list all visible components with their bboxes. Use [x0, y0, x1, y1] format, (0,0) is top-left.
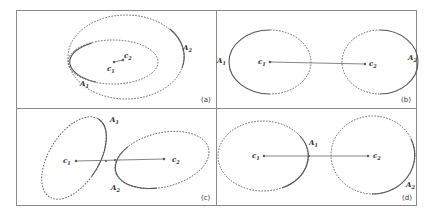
- label-a1: A1: [308, 138, 318, 148]
- label-a1: A1: [109, 115, 119, 125]
- panel-tag-c: (c): [201, 194, 211, 202]
- label-c2: c2: [373, 151, 381, 161]
- label-a2: A2: [405, 180, 415, 190]
- label-c1: c1: [107, 64, 115, 74]
- center-c1: [263, 155, 265, 157]
- center-c1: [269, 61, 271, 63]
- center-segment: [270, 62, 365, 64]
- panel-tag-d: (d): [402, 194, 412, 202]
- panel-b: c1 c2 A1 A2 (b): [216, 30, 418, 104]
- panel-tag-b: (b): [401, 96, 411, 104]
- label-c1: c1: [63, 156, 71, 166]
- label-a1: A1: [216, 56, 226, 66]
- intersection-point-2: [114, 159, 116, 161]
- label-c2: c2: [369, 59, 377, 69]
- panel-a: c1 c2 A1 A2 (a): [68, 15, 211, 104]
- center-c1: [75, 160, 77, 162]
- tangent-point: [308, 155, 310, 157]
- label-c2: c2: [172, 155, 180, 165]
- arc-a2: [380, 30, 418, 94]
- panel-tag-a: (a): [201, 96, 211, 104]
- center-c2: [367, 155, 369, 157]
- label-c1: c1: [252, 151, 260, 161]
- arc-a1: [70, 43, 96, 82]
- label-a2: A2: [110, 183, 120, 193]
- ellipse-diagram: c1 c2 A1 A2 (a) c1 c2 A1 A2 (b): [0, 0, 432, 216]
- center-c1: [113, 61, 115, 63]
- center-segment: [114, 60, 123, 62]
- panel-d: c1 c2 A1 A2 (d): [218, 116, 415, 202]
- intersection-point-1: [105, 160, 107, 162]
- panel-c: c1 c2 A1 A2 (c): [28, 106, 215, 211]
- center-c2: [163, 158, 165, 160]
- arc-a1: [71, 119, 120, 176]
- label-c2: c2: [124, 51, 132, 61]
- left-ellipse: [28, 106, 119, 211]
- label-c1: c1: [258, 57, 266, 67]
- center-segment: [76, 159, 164, 161]
- label-a2: A2: [407, 53, 417, 63]
- label-a2: A2: [182, 43, 192, 53]
- center-c2: [364, 63, 366, 65]
